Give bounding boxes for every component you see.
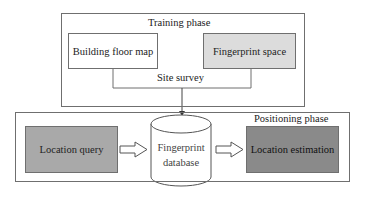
positioning-phase-title: Positioning phase [254,113,328,124]
location-query-box: Location query [25,126,118,173]
fingerprint-database-label: Fingerprint database [151,140,211,170]
fingerprint-space-box: Fingerprint space [203,33,296,69]
database-label-line1: Fingerprint [151,140,211,155]
training-phase-title: Training phase [148,17,210,28]
database-label-line2: database [151,155,211,170]
location-estimation-box: Location estimation [246,126,339,173]
site-survey-label: Site survey [157,72,204,83]
building-floor-map-box: Building floor map [68,33,158,69]
